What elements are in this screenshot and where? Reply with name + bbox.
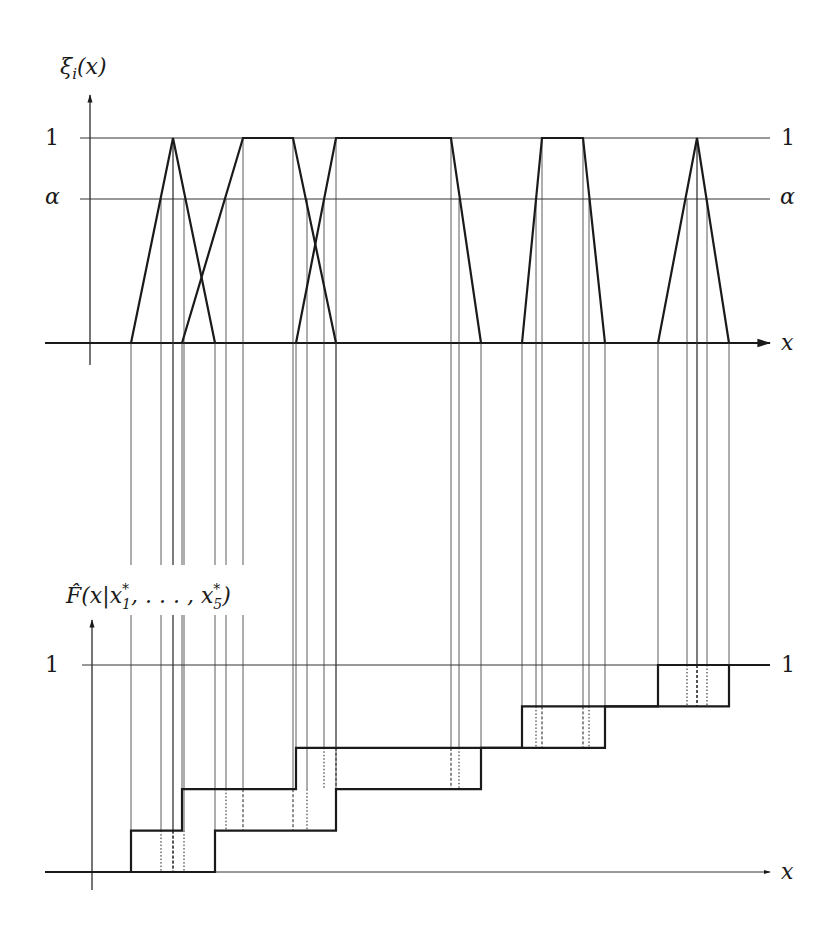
top-y-axis-label: ξi(x) bbox=[60, 54, 107, 83]
cdf-step-boxes bbox=[45, 665, 770, 872]
bottom-axes bbox=[45, 620, 770, 890]
top-x-axis-label: x bbox=[781, 330, 794, 355]
empirical-cdf-chart: F̂(x|x*1, . . . , x*5) 1 1 x bbox=[45, 565, 795, 890]
membership-trapezoid bbox=[182, 138, 336, 343]
top-right-alpha-label: α bbox=[780, 184, 795, 209]
lower-cdf-bound bbox=[45, 665, 729, 872]
membership-functions-chart: ξi(x) 1 α 1 α x bbox=[45, 54, 795, 872]
membership-trapezoid bbox=[522, 138, 605, 343]
fuzzy-empirical-cdf-diagram: ξi(x) 1 α 1 α x F̂(x|x*1, . . . , x*5) 1… bbox=[0, 0, 839, 940]
projection-lines bbox=[60, 138, 729, 872]
top-right-one-label: 1 bbox=[781, 125, 795, 150]
bottom-level-one-label: 1 bbox=[45, 652, 59, 677]
bottom-y-axis-label: F̂(x|x*1, . . . , x*5) bbox=[65, 581, 231, 612]
bottom-right-one-label: 1 bbox=[781, 652, 795, 677]
top-level-alpha-label: α bbox=[45, 184, 60, 209]
top-level-one-label: 1 bbox=[45, 125, 59, 150]
membership-triangle bbox=[658, 138, 729, 343]
bottom-x-axis-label: x bbox=[781, 859, 794, 884]
membership-function-shapes bbox=[131, 138, 729, 343]
